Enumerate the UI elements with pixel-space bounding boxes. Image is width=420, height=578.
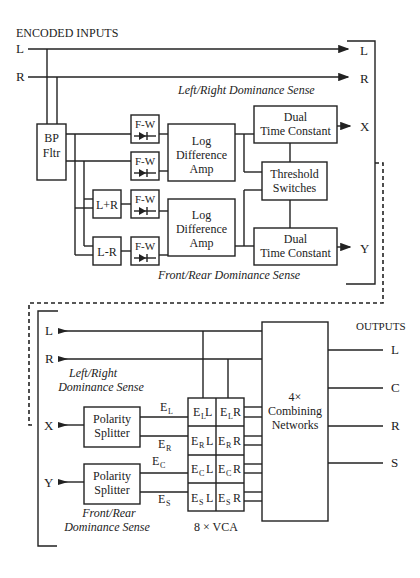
- svg-text:L: L: [205, 405, 212, 419]
- encoded-inputs-heading: ENCODED INPUTS: [16, 26, 118, 40]
- svg-text:L: L: [206, 462, 213, 476]
- bp-filter-label-1: BP: [44, 131, 59, 145]
- output-r-label: R: [360, 71, 369, 86]
- svg-text:R: R: [233, 491, 241, 505]
- svg-text:Dual: Dual: [284, 110, 308, 124]
- svg-text:Time Constant: Time Constant: [260, 246, 331, 260]
- svg-text:E: E: [218, 491, 225, 505]
- svg-text:R: R: [199, 441, 205, 450]
- svg-text:Polarity: Polarity: [93, 412, 131, 426]
- vca-label: 8 × VCA: [194, 520, 238, 534]
- svg-text:Dual: Dual: [284, 232, 308, 246]
- output-y-label: Y: [360, 241, 370, 256]
- e-label-s: ES: [158, 492, 170, 508]
- svg-text:E: E: [193, 405, 200, 419]
- svg-text:F-W: F-W: [135, 240, 156, 252]
- svg-text:E: E: [220, 405, 227, 419]
- svg-text:E: E: [152, 454, 159, 468]
- svg-text:Log: Log: [192, 208, 211, 222]
- svg-text:R: R: [166, 444, 172, 453]
- bottom-input-y-label: Y: [44, 475, 54, 490]
- svg-text:Networks: Networks: [272, 418, 319, 432]
- svg-text:L: L: [206, 434, 213, 448]
- e-label-r: ER: [158, 437, 172, 453]
- svg-text:R: R: [233, 405, 241, 419]
- svg-text:F-W: F-W: [135, 155, 156, 167]
- matrix-decoder-diagram: ENCODED INPUTS L R L R Left/Right Domina…: [0, 0, 420, 578]
- svg-text:Amp: Amp: [190, 236, 214, 250]
- output-r: R: [391, 418, 400, 433]
- difference-label: L-R: [97, 245, 116, 259]
- svg-text:R: R: [233, 462, 241, 476]
- output-l: L: [391, 342, 399, 357]
- full-wave-rectifier-4: F-W: [131, 237, 159, 265]
- svg-text:E: E: [191, 491, 198, 505]
- bottom-lr-sense-2: Dominance Sense: [57, 380, 144, 394]
- outputs-heading: OUTPUTS: [356, 320, 406, 332]
- svg-text:Polarity: Polarity: [93, 469, 131, 483]
- svg-text:S: S: [166, 499, 170, 508]
- svg-text:R: R: [233, 434, 241, 448]
- svg-text:Difference: Difference: [176, 222, 227, 236]
- svg-text:F-W: F-W: [135, 193, 156, 205]
- svg-text:E: E: [160, 400, 167, 414]
- svg-text:R: R: [226, 441, 232, 450]
- svg-text:E: E: [158, 492, 165, 506]
- bottom-lr-sense-1: Left/Right: [68, 366, 118, 380]
- bottom-input-r-label: R: [45, 351, 54, 366]
- svg-text:Difference: Difference: [176, 148, 227, 162]
- svg-text:Splitter: Splitter: [94, 426, 129, 440]
- svg-text:F-W: F-W: [135, 118, 156, 130]
- svg-text:4×: 4×: [289, 390, 302, 404]
- bottom-input-l-label: L: [45, 323, 53, 338]
- output-x-label: X: [360, 119, 370, 134]
- svg-text:Switches: Switches: [273, 181, 317, 195]
- svg-text:E: E: [191, 434, 198, 448]
- svg-text:Combining: Combining: [268, 404, 322, 418]
- svg-text:C: C: [199, 469, 204, 478]
- e-label-l: EL: [160, 400, 173, 416]
- svg-text:Amp: Amp: [190, 162, 214, 176]
- svg-text:Threshold: Threshold: [270, 167, 319, 181]
- vca-output-lines: [244, 407, 262, 501]
- svg-text:S: S: [199, 498, 203, 507]
- svg-text:Splitter: Splitter: [94, 483, 129, 497]
- svg-text:Log: Log: [192, 134, 211, 148]
- svg-text:S: S: [226, 498, 230, 507]
- bottom-fr-sense-2: Dominance Sense: [63, 520, 150, 534]
- svg-text:E: E: [218, 434, 225, 448]
- full-wave-rectifier-2: F-W: [131, 152, 159, 180]
- svg-text:E: E: [191, 462, 198, 476]
- input-r-label: R: [16, 69, 25, 84]
- input-l-label: L: [16, 41, 24, 56]
- output-c: C: [391, 380, 400, 395]
- bp-filter-label-2: Fltr: [43, 146, 60, 160]
- svg-text:E: E: [158, 437, 165, 451]
- full-wave-rectifier-1: F-W: [131, 115, 159, 143]
- svg-text:Time Constant: Time Constant: [260, 124, 331, 138]
- output-l-label: L: [360, 43, 368, 58]
- lr-dominance-sense-label: Left/Right Dominance Sense: [177, 83, 315, 97]
- e-label-c: EC: [152, 454, 165, 470]
- svg-text:E: E: [218, 462, 225, 476]
- fr-dominance-sense-label: Front/Rear Dominance Sense: [157, 268, 301, 282]
- full-wave-rectifier-3: F-W: [131, 190, 159, 218]
- sum-label: L+R: [96, 198, 118, 212]
- bottom-input-x-label: X: [44, 418, 54, 433]
- svg-text:C: C: [226, 469, 231, 478]
- svg-text:L: L: [206, 491, 213, 505]
- bottom-fr-sense-1: Front/Rear: [81, 506, 136, 520]
- svg-text:C: C: [160, 461, 165, 470]
- output-s: S: [391, 455, 398, 470]
- svg-text:L: L: [168, 407, 173, 416]
